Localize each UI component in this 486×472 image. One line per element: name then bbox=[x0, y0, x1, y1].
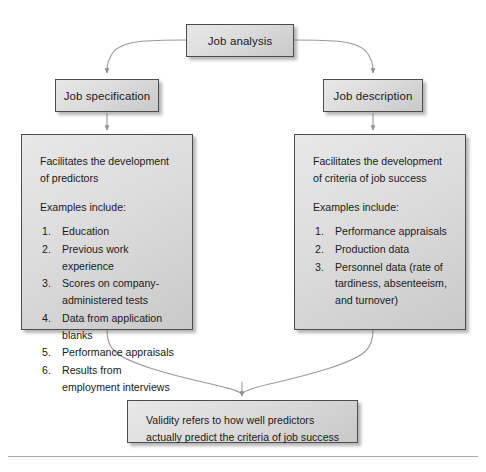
list-item-number: 5. bbox=[42, 344, 56, 361]
list-item: 5.Performance appraisals bbox=[40, 344, 178, 361]
list-item: 1.Performance appraisals bbox=[313, 223, 451, 240]
node-job-specification-label: Job specification bbox=[64, 90, 151, 102]
diagram-canvas: Job analysis Job specification Job descr… bbox=[0, 0, 486, 472]
list-item-number: 3. bbox=[42, 275, 56, 292]
list-item-text: Data from application blanks bbox=[62, 312, 162, 341]
edge-right-panel-to-conclusion bbox=[242, 330, 373, 394]
right-panel-heading: Facilitates the development of criteria … bbox=[313, 153, 451, 186]
list-item-text: Personnel data (rate of tardiness, absen… bbox=[335, 261, 447, 306]
footer-divider bbox=[8, 456, 478, 457]
list-item-text: Scores on company-administered tests bbox=[62, 277, 159, 306]
edge-root-to-job-description bbox=[294, 40, 373, 73]
list-item-number: 1. bbox=[42, 223, 56, 240]
list-item-number: 4. bbox=[42, 310, 56, 327]
panel-job-description-details[interactable]: Facilitates the development of criteria … bbox=[294, 134, 466, 330]
conclusion-text: Validity refers to how well predictors a… bbox=[146, 412, 341, 445]
left-panel-subheading: Examples include: bbox=[40, 199, 178, 216]
list-item: 4.Data from application blanks bbox=[40, 310, 178, 343]
list-item-number: 2. bbox=[42, 241, 56, 258]
list-item-text: Previous work experience bbox=[62, 243, 129, 272]
edge-root-to-job-specification bbox=[107, 40, 186, 73]
list-item: 2.Production data bbox=[313, 241, 451, 258]
right-panel-subheading: Examples include: bbox=[313, 199, 451, 216]
list-item-text: Results from employment interviews bbox=[62, 364, 170, 393]
list-item-text: Education bbox=[62, 225, 109, 237]
panel-job-specification-details[interactable]: Facilitates the development of predictor… bbox=[21, 134, 193, 330]
node-job-description-label: Job description bbox=[334, 90, 413, 102]
list-item-text: Performance appraisals bbox=[335, 225, 447, 237]
node-job-description[interactable]: Job description bbox=[323, 79, 423, 112]
list-item: 3.Personnel data (rate of tardiness, abs… bbox=[313, 259, 451, 309]
node-job-specification[interactable]: Job specification bbox=[55, 79, 159, 112]
list-item: 1.Education bbox=[40, 223, 178, 240]
list-item-number: 2. bbox=[315, 241, 329, 258]
list-item: 6.Results from employment interviews bbox=[40, 362, 178, 395]
list-item-text: Performance appraisals bbox=[62, 346, 174, 358]
list-item-text: Production data bbox=[335, 243, 409, 255]
left-panel-heading: Facilitates the development of predictor… bbox=[40, 153, 178, 186]
right-panel-list: 1.Performance appraisals 2.Production da… bbox=[313, 223, 451, 309]
list-item-number: 6. bbox=[42, 362, 56, 379]
node-validity-conclusion[interactable]: Validity refers to how well predictors a… bbox=[127, 400, 358, 443]
list-item-number: 1. bbox=[315, 223, 329, 240]
list-item: 2.Previous work experience bbox=[40, 241, 178, 274]
node-job-analysis-label: Job analysis bbox=[208, 35, 272, 47]
left-panel-list: 1.Education 2.Previous work experience 3… bbox=[40, 223, 178, 395]
cropped-caption-sliver bbox=[0, 0, 486, 6]
list-item: 3.Scores on company-administered tests bbox=[40, 275, 178, 308]
list-item-number: 3. bbox=[315, 259, 329, 276]
node-job-analysis[interactable]: Job analysis bbox=[186, 24, 294, 57]
